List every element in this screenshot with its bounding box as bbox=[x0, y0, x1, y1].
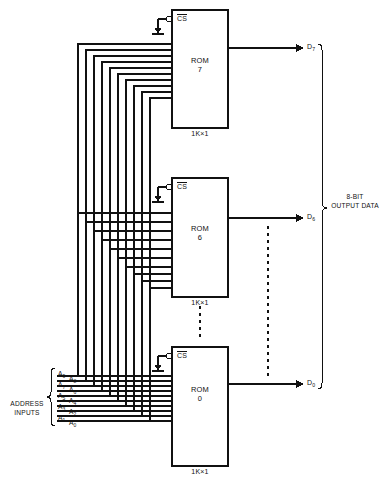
output-label-d7: D7 bbox=[307, 43, 315, 52]
rom7-name-line2: 7 bbox=[198, 65, 202, 74]
rom7-cs-net bbox=[158, 16, 172, 30]
rom7-name-line1: ROM bbox=[191, 56, 209, 65]
rom6-size: 1K×1 bbox=[165, 299, 235, 306]
address-group-line1: ADDRESS bbox=[10, 400, 43, 407]
address-label-a0: A0 bbox=[69, 419, 77, 428]
rom6-cs-net bbox=[158, 184, 172, 198]
rom0-name-line1: ROM bbox=[191, 385, 209, 394]
rom7-size: 1K×1 bbox=[165, 130, 235, 137]
output-arrowheads bbox=[296, 44, 304, 388]
output-data-group-label: 8-BIT OUTPUT DATA bbox=[328, 193, 382, 210]
rom0-cs-label: CS bbox=[177, 351, 187, 360]
output-d0-sub: 0 bbox=[312, 382, 315, 388]
address-a2-sub: 2 bbox=[74, 411, 77, 417]
rom0-name: ROM 0 bbox=[172, 385, 228, 403]
address-bus bbox=[57, 44, 172, 421]
cs-ground-bars bbox=[152, 34, 164, 371]
address-label-a9: A9 bbox=[58, 370, 66, 379]
address-label-a4: A4 bbox=[69, 397, 77, 406]
address-label-a7: A7 bbox=[58, 381, 66, 390]
rom6-name: ROM 6 bbox=[172, 224, 228, 242]
output-label-d6: D6 bbox=[307, 213, 315, 222]
rom6-name-line1: ROM bbox=[191, 224, 209, 233]
rom6-name-line2: 6 bbox=[198, 233, 202, 242]
address-label-a8: A8 bbox=[69, 375, 77, 384]
address-label-a5: A5 bbox=[58, 392, 66, 401]
address-a9-sub: 9 bbox=[63, 373, 66, 379]
address-a1-sub: 1 bbox=[63, 417, 66, 423]
address-a5-sub: 5 bbox=[63, 395, 66, 401]
rom0-cs-net bbox=[158, 353, 172, 367]
address-a3-sub: 3 bbox=[63, 406, 66, 412]
rom0-size: 1K×1 bbox=[165, 468, 235, 475]
address-a7-sub: 7 bbox=[63, 384, 66, 390]
address-label-a2: A2 bbox=[69, 408, 77, 417]
address-inputs-brace bbox=[47, 368, 55, 426]
output-d7-sub: 7 bbox=[312, 46, 315, 52]
rom7-name: ROM 7 bbox=[172, 56, 228, 74]
rom0-name-line2: 0 bbox=[198, 394, 202, 403]
address-inputs-group-label: ADDRESS INPUTS bbox=[5, 400, 49, 417]
output-group-line1: 8-BIT bbox=[346, 193, 363, 200]
address-label-a6: A6 bbox=[69, 386, 77, 395]
address-a4-sub: 4 bbox=[74, 400, 77, 406]
output-d6-sub: 6 bbox=[312, 216, 315, 222]
address-a0-sub: 0 bbox=[74, 422, 77, 428]
address-a8-sub: 8 bbox=[74, 378, 77, 384]
rom6-cs-label: CS bbox=[177, 182, 187, 191]
output-data-brace bbox=[318, 44, 327, 389]
address-group-line2: INPUTS bbox=[14, 409, 39, 416]
address-a6-sub: 6 bbox=[74, 389, 77, 395]
output-group-line2: OUTPUT DATA bbox=[331, 202, 379, 209]
output-label-d0: D0 bbox=[307, 379, 315, 388]
address-label-a1: A1 bbox=[58, 414, 66, 423]
rom7-cs-label: CS bbox=[177, 14, 187, 23]
rom0-box bbox=[172, 347, 228, 466]
address-label-a3: A3 bbox=[58, 403, 66, 412]
